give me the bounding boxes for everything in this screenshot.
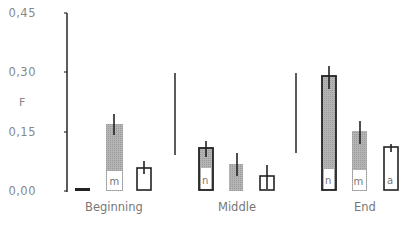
bar-end-n: n [322,66,336,190]
bar-letter-a: a [387,175,393,186]
bar-letter-m: m [110,176,120,187]
bar-beginning-m: m [106,114,123,191]
bar-middle-n: n [199,141,213,190]
bar-end-m: m [352,121,367,191]
bar-middle-m [229,153,243,191]
bar-middle-a [260,165,274,190]
bar-beginning-a [137,161,151,190]
bar-letter-n: n [202,175,208,186]
chart-plot: m n n m a [0,0,418,225]
y-axis [64,13,67,192]
bar-letter-m: m [354,176,364,187]
bar-beginning-n [75,188,90,191]
bar-letter-n: n [325,175,331,186]
bar-end-a: a [384,144,398,190]
